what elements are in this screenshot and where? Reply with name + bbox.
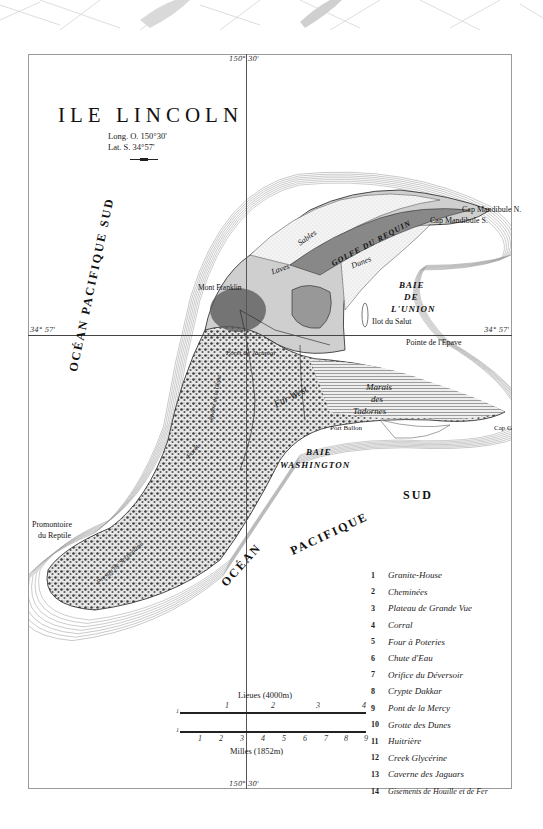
- legend-item: 8Crypte Dakkar: [371, 683, 511, 700]
- scale-lieues-title: Lieues (4000m): [238, 690, 292, 700]
- legend-number: 14: [371, 787, 388, 796]
- legend-item: 5Four à Poteries: [371, 633, 511, 650]
- legend-label: Granite-House: [388, 570, 442, 580]
- legend-item: 14Gisements de Houille et de Fer: [371, 783, 511, 800]
- bottom-meridian-label: 150° 30': [229, 780, 259, 788]
- top-meridian-label: 150° 30': [229, 55, 259, 63]
- place-cap-mandibule-n: Cap Mandibule N.: [462, 205, 521, 214]
- right-parallel-label: 34° 57': [484, 326, 509, 334]
- place-cap-mandibule-s: Cap Mandibule S.: [430, 216, 488, 225]
- milles-tick: 7: [324, 734, 328, 743]
- legend-item: 12Creek Glycérine: [371, 750, 511, 767]
- legend-item: 4Corral: [371, 617, 511, 634]
- legend-label: Crypte Dakkar: [388, 686, 442, 696]
- milles-tick: 9: [364, 734, 368, 743]
- legend-number: 11: [371, 737, 388, 746]
- scale-lieues-bar: [180, 712, 366, 714]
- milles-tick: 5: [282, 734, 286, 743]
- legend-number: 8: [371, 687, 388, 696]
- legend-label: Gisements de Houille et de Fer: [388, 787, 488, 796]
- place-marais-line1: Marais: [366, 382, 392, 392]
- legend-label: Plateau de Grande Vue: [388, 603, 472, 613]
- scale-milles-title: Milles (1852m): [230, 746, 283, 756]
- place-pointe-epave: Pointe de l'Epave: [406, 338, 462, 347]
- legend-item: 10Grotte des Dunes: [371, 716, 511, 733]
- legend-number: 3: [371, 604, 388, 613]
- legend-number: 7: [371, 670, 388, 679]
- ocean-label-south-sud: SUD: [403, 488, 433, 503]
- legend-label: Four à Poteries: [388, 637, 445, 647]
- legend-item: 11Huitrière: [371, 733, 511, 750]
- legend-number: 5: [371, 637, 388, 646]
- legend-item: 9Pont de la Mercy: [371, 700, 511, 717]
- legend-label: Pont de la Mercy: [388, 703, 450, 713]
- legend-label: Cheminées: [388, 587, 428, 597]
- milles-tick: 1: [198, 734, 202, 743]
- legend-number: 1: [371, 571, 388, 580]
- lieues-tick: 2: [271, 701, 275, 710]
- legend-label: Chute d'Eau: [388, 653, 433, 663]
- place-cap-griffe: Cap Griffe: [494, 424, 512, 432]
- meridian-line: [246, 54, 247, 789]
- lieues-tick: 1: [176, 708, 179, 714]
- scale-milles-bar: [180, 731, 366, 733]
- legend-item: 7Orifice du Déversoir: [371, 667, 511, 684]
- legend-item: 1Granite-House: [371, 567, 511, 584]
- legend-item: 2Cheminées: [371, 584, 511, 601]
- map-legend: 1Granite-House 2Cheminées 3Plateau de Gr…: [371, 567, 511, 799]
- place-port-ballon: Port Ballon: [330, 424, 362, 432]
- title-rule: [130, 159, 158, 160]
- legend-label: Caverne des Jaguars: [388, 769, 464, 779]
- legend-number: 10: [371, 720, 388, 729]
- latitude-text: Lat. S. 34°57': [108, 142, 167, 153]
- parallel-line: [28, 335, 512, 336]
- bay-union-line3: L'UNION: [391, 304, 436, 314]
- legend-label: Grotte des Dunes: [388, 720, 451, 730]
- bay-union-line2: DE: [404, 292, 419, 302]
- legend-label: Creek Glycérine: [388, 753, 447, 763]
- legend-item: 13Caverne des Jaguars: [371, 766, 511, 783]
- legend-label: Orifice du Déversoir: [388, 670, 463, 680]
- place-marais-line2: des: [371, 394, 383, 404]
- place-promontoire-line2: du Reptile: [38, 531, 71, 540]
- bay-union-line1: BAIE: [399, 280, 425, 290]
- milles-tick: 2: [219, 734, 223, 743]
- legend-number: 12: [371, 753, 388, 762]
- coordinates-block: Long. O. 150°30' Lat. S. 34°57': [108, 131, 167, 153]
- milles-tick: 4: [261, 734, 265, 743]
- bay-washington-line2: WASHINGTON: [280, 460, 350, 470]
- place-marais-line3: Tadornes: [353, 406, 386, 416]
- milles-tick: 8: [344, 734, 348, 743]
- map-title: ILE LINCOLN: [58, 103, 243, 128]
- legend-label: Corral: [388, 620, 413, 630]
- milles-tick: 3: [240, 734, 244, 743]
- place-jacamar: Forêt de Jacamar: [226, 349, 276, 357]
- legend-item: 3Plateau de Grande Vue: [371, 600, 511, 617]
- place-ilot-du-salut: Ilot du Salut: [372, 317, 412, 326]
- legend-number: 9: [371, 704, 388, 713]
- longitude-text: Long. O. 150°30': [108, 131, 167, 142]
- legend-number: 4: [371, 621, 388, 630]
- legend-number: 13: [371, 770, 388, 779]
- milles-tick: 1: [176, 727, 179, 733]
- lieues-tick: 4: [362, 701, 366, 710]
- lieues-tick: 1: [225, 701, 229, 710]
- place-mont-franklin: Mont Franklin: [198, 283, 242, 292]
- legend-number: 2: [371, 587, 388, 596]
- lieues-tick: 3: [316, 701, 320, 710]
- left-parallel-label: 34° 57': [30, 326, 55, 334]
- legend-item: 6Chute d'Eau: [371, 650, 511, 667]
- legend-label: Huitrière: [388, 736, 421, 746]
- milles-tick: 6: [303, 734, 307, 743]
- place-promontoire-line1: Promontoire: [32, 520, 72, 529]
- legend-number: 6: [371, 654, 388, 663]
- bay-washington-line1: BAIE: [306, 447, 332, 457]
